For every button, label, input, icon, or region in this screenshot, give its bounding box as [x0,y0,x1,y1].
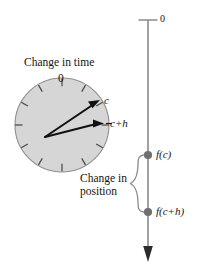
rate-of-change-figure: Change in time 0 c c+h 0 f(c) f(c+h) Cha… [0,0,198,268]
clock-hand-label-c: c [104,94,109,106]
change-in-position-brace [131,155,144,212]
clock-caption: Change in time [24,56,94,69]
axis-point-fch [144,208,152,216]
clock-hand-label-c-plus-h: c+h [110,117,128,129]
axis-point-label-fc: f(c) [156,148,171,160]
axis-point-fc [144,151,152,159]
position-axis-group [139,20,158,262]
change-in-position-caption: Change in position [80,172,127,198]
change-in-position-caption-line-1: Change in [80,172,127,185]
clock-dial-zero-label: 0 [58,72,64,85]
change-in-position-caption-line-2: position [80,185,127,198]
figure-canvas [0,0,198,268]
axis-arrowhead-icon [143,246,153,262]
axis-point-label-fch: f(c+h) [156,205,184,217]
clock-group [15,78,112,172]
axis-zero-label: 0 [160,13,165,24]
